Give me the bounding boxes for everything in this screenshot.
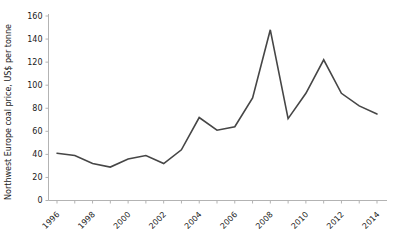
y-tick-label: 40	[32, 150, 42, 159]
x-tick-label: 2000	[112, 210, 133, 231]
x-tick-label: 2002	[147, 210, 168, 231]
y-tick-label: 0	[37, 196, 42, 205]
line-chart-canvas: 0204060801001201401601996199820002002200…	[0, 0, 404, 240]
x-tick-label: 2004	[183, 210, 204, 231]
y-tick-label: 20	[32, 173, 42, 182]
coal-price-chart: Northwest Europe coal price, US$ per ton…	[0, 0, 404, 240]
x-tick-label: 1996	[41, 210, 62, 231]
x-tick-label: 2008	[254, 210, 275, 231]
y-tick-label: 140	[27, 35, 42, 44]
y-tick-label: 60	[32, 127, 42, 136]
x-tick-label: 1998	[76, 210, 97, 231]
y-axis-title: Northwest Europe coal price, US$ per ton…	[3, 2, 15, 222]
x-tick-label: 2010	[290, 210, 311, 231]
y-tick-label: 100	[27, 81, 42, 90]
y-tick-label: 80	[32, 104, 42, 113]
coal-price-series-line	[57, 30, 377, 167]
x-tick-label: 2006	[218, 210, 239, 231]
y-tick-label: 160	[27, 12, 42, 21]
y-tick-label: 120	[27, 58, 42, 67]
x-tick-label: 2012	[325, 210, 346, 231]
x-tick-label: 2014	[361, 210, 382, 231]
